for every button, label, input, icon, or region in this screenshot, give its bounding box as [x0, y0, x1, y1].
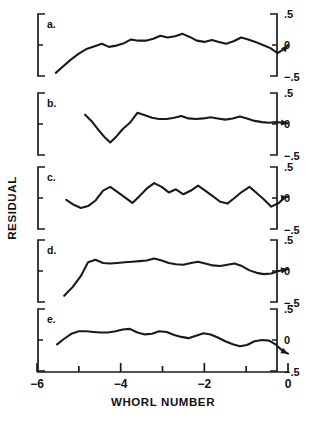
y-tick-label: 0 — [284, 334, 290, 346]
figure-canvas: .50−.5a..50−.5b..50−.5c..50−.5d..50−.5e.… — [0, 0, 330, 423]
panel: .50−.5a. — [38, 8, 300, 83]
panel: .50−.5c. — [38, 161, 300, 236]
y-tick-label: .5 — [284, 303, 293, 315]
y-tick-label: .5 — [284, 161, 293, 173]
left-bracket — [38, 14, 45, 76]
residual-curve — [64, 259, 288, 296]
right-bracket — [270, 93, 277, 155]
left-bracket — [38, 93, 45, 155]
x-tick-label: −6 — [30, 377, 44, 391]
x-tick-label: −2 — [197, 377, 211, 391]
residual-curve — [56, 34, 288, 73]
y-tick-label: .5 — [284, 234, 293, 246]
x-axis-label: WHORL NUMBER — [111, 396, 215, 408]
left-bracket — [38, 309, 45, 371]
residual-curve — [66, 183, 288, 208]
panel-label: e. — [47, 313, 56, 325]
panel-label: b. — [47, 97, 56, 109]
x-tick-label: −4 — [114, 377, 128, 391]
residual-curve — [85, 113, 288, 143]
panel-group: .50−.5a..50−.5b..50−.5c..50−.5d..50−.5e. — [38, 8, 300, 378]
y-tick-label: −.5 — [284, 71, 300, 83]
panel-label: c. — [47, 171, 56, 183]
panel: .50−.5d. — [38, 234, 300, 309]
residual-figure: .50−.5a..50−.5b..50−.5c..50−.5d..50−.5e.… — [0, 0, 330, 423]
x-tick-label: 0 — [285, 377, 292, 391]
right-bracket — [270, 167, 277, 229]
right-bracket — [270, 14, 277, 76]
y-axis-label: RESIDUAL — [6, 176, 18, 240]
left-bracket — [38, 167, 45, 229]
y-tick-label: .5 — [284, 8, 293, 20]
panel: .50−.5e. — [38, 303, 300, 378]
left-bracket — [38, 240, 45, 302]
y-tick-label: .5 — [284, 87, 293, 99]
panel: .50−.5b. — [38, 87, 300, 162]
residual-curve — [57, 329, 288, 354]
panel-label: a. — [47, 18, 56, 30]
right-bracket — [270, 309, 277, 371]
panel-label: d. — [47, 244, 56, 256]
x-axis: −6−4−20 — [30, 363, 292, 391]
